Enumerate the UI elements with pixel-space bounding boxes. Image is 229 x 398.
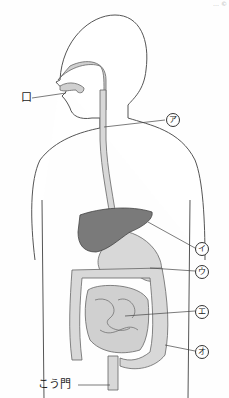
label-e: エ	[195, 305, 209, 319]
label-o: オ	[195, 345, 209, 359]
digestive-diagram: … ©	[0, 0, 229, 398]
label-anus: こう門	[38, 379, 71, 390]
label-i: イ	[195, 242, 209, 256]
label-a: ア	[166, 113, 180, 127]
label-u: ウ	[195, 265, 209, 279]
label-mouth: 口	[21, 92, 32, 103]
body-illustration	[0, 0, 229, 398]
